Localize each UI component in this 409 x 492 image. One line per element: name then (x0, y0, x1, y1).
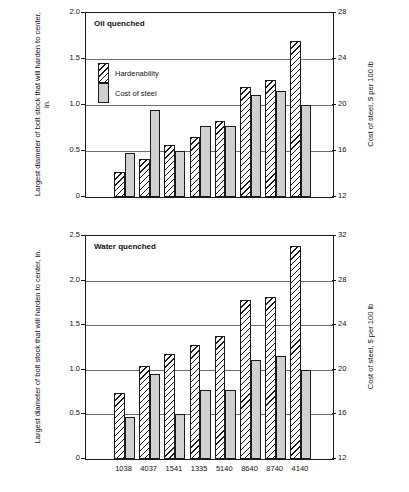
y-tick-label-right: 20 (338, 100, 366, 108)
bar-hardenability (114, 393, 125, 459)
y-tick-label-left: 0.5 (46, 146, 80, 154)
y-tick-label-right: 24 (338, 320, 366, 328)
bar-cost-of-steel (251, 95, 262, 197)
bar-cost-of-steel (200, 126, 211, 197)
bar-hardenability (265, 80, 276, 197)
y-tick-label-left: 0 (46, 454, 80, 462)
bar-cost-of-steel (225, 390, 236, 459)
bar-cost-of-steel (125, 417, 136, 459)
y-axis-title-right-water: Cost of steel, $ per 100 lb (366, 235, 375, 458)
chart-panel-water-quenched: Largest diameter of bolt stock that will… (0, 222, 409, 492)
bar-hardenability (265, 297, 276, 459)
bar-hardenability (190, 345, 201, 459)
y-axis-title-right-oil: Cost of steel, $ per 100 lb (366, 12, 375, 196)
bar-cost-of-steel (175, 414, 186, 459)
bar-cost-of-steel (125, 153, 136, 197)
bar-cost-of-steel (175, 151, 186, 197)
y-axis-title-left-water: Largest diameter of bolt stock that will… (33, 235, 42, 458)
bar-hardenability (215, 121, 226, 197)
y-tick-label-left: 0 (46, 192, 80, 200)
y-tick-label-left: 1.0 (46, 365, 80, 373)
bar-cost-of-steel (301, 105, 312, 197)
y-tick-mark-left (81, 150, 85, 151)
y-tick-mark-left (81, 280, 85, 281)
y-tick-label-left: 1.5 (46, 54, 80, 62)
bar-cost-of-steel (150, 110, 161, 197)
bar-hardenability (114, 172, 125, 197)
y-tick-label-right: 28 (338, 276, 366, 284)
y-tick-label-left: 0.5 (46, 409, 80, 417)
bar-cost-of-steel (301, 370, 312, 459)
y-tick-mark-left (81, 58, 85, 59)
legend-label-hardenability: Hardenability (115, 69, 159, 78)
bar-hardenability (240, 300, 251, 459)
y-tick-label-right: 28 (338, 8, 366, 16)
x-tick-label: 4140 (284, 464, 315, 473)
y-tick-mark-left (81, 196, 85, 197)
y-tick-mark-right (332, 150, 336, 151)
y-tick-label-right: 32 (338, 231, 366, 239)
y-tick-mark-left (81, 413, 85, 414)
legend-label-cost: Cost of steel (115, 89, 157, 98)
plot-area-oil: Oil quenched Hardenability Cost of steel (85, 12, 334, 198)
y-tick-mark-left (81, 458, 85, 459)
y-tick-mark-left (81, 235, 85, 236)
y-tick-mark-right (332, 104, 336, 105)
y-tick-mark-right (332, 58, 336, 59)
y-tick-mark-right (332, 458, 336, 459)
chart-panel-oil-quenched: Largest diameter of bolt stock that will… (0, 0, 409, 222)
bar-hardenability (139, 366, 150, 459)
y-tick-label-left: 1.0 (46, 100, 80, 108)
panel-caption-oil: Oil quenched (94, 19, 145, 28)
legend-swatch-hardenability-icon (98, 63, 109, 83)
y-tick-mark-right (332, 280, 336, 281)
bar-hardenability (139, 159, 150, 197)
bar-cost-of-steel (225, 126, 236, 197)
bar-cost-of-steel (276, 91, 287, 197)
y-tick-label-right: 16 (338, 409, 366, 417)
y-tick-mark-left (81, 369, 85, 370)
bar-hardenability (190, 137, 201, 197)
bar-cost-of-steel (200, 390, 211, 459)
plot-area-water: Water quenched (85, 235, 334, 460)
legend-swatch-cost-icon (98, 83, 109, 103)
y-tick-label-right: 12 (338, 192, 366, 200)
y-tick-mark-left (81, 12, 85, 13)
y-tick-mark-left (81, 324, 85, 325)
y-tick-mark-right (332, 369, 336, 370)
bar-hardenability (215, 336, 226, 459)
y-tick-mark-left (81, 104, 85, 105)
y-tick-label-right: 16 (338, 146, 366, 154)
y-tick-mark-right (332, 235, 336, 236)
y-tick-label-right: 12 (338, 454, 366, 462)
bar-hardenability (240, 87, 251, 197)
y-tick-mark-right (332, 12, 336, 13)
panel-caption-water: Water quenched (94, 242, 156, 251)
y-tick-label-left: 2.0 (46, 8, 80, 16)
bar-hardenability (290, 246, 301, 459)
bar-cost-of-steel (276, 356, 287, 459)
bar-hardenability (164, 145, 175, 197)
bar-hardenability (290, 41, 301, 197)
y-tick-label-right: 20 (338, 365, 366, 373)
y-tick-mark-right (332, 196, 336, 197)
y-tick-label-right: 24 (338, 54, 366, 62)
bar-cost-of-steel (150, 374, 161, 459)
y-tick-mark-right (332, 413, 336, 414)
y-tick-label-left: 1.5 (46, 320, 80, 328)
bar-cost-of-steel (251, 360, 262, 459)
y-tick-mark-right (332, 324, 336, 325)
y-tick-label-left: 2.0 (46, 276, 80, 284)
bar-hardenability (164, 354, 175, 459)
y-tick-label-left: 2.5 (46, 231, 80, 239)
